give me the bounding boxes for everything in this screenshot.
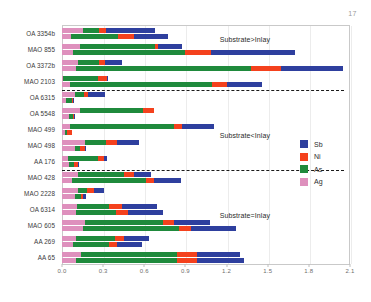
bar-substrate xyxy=(62,140,139,145)
bar-segment-sb xyxy=(105,60,122,65)
bar-segment-sb xyxy=(197,252,240,257)
bar-segment-sb xyxy=(94,188,104,193)
bar-segment-as xyxy=(68,156,97,161)
bar-segment-as xyxy=(81,252,177,257)
bar-segment-sb xyxy=(124,236,149,241)
y-axis-tick-label: OA 3372b xyxy=(26,62,55,69)
bar-segment-ni xyxy=(177,252,198,257)
bar-segment-as xyxy=(77,204,109,209)
bar-segment-sb xyxy=(117,242,142,247)
y-axis-tick-label: MAO 2228 xyxy=(24,190,55,197)
legend-label: Sb xyxy=(314,141,323,148)
bar-segment-sb xyxy=(85,146,86,151)
legend-item-as[interactable]: As xyxy=(300,165,362,173)
x-axis-tick xyxy=(308,264,309,267)
y-axis-tick-label: OA 5548 xyxy=(30,110,55,117)
bar-segment-as xyxy=(80,44,155,49)
bar-segment-sb xyxy=(182,124,214,129)
bar-segment-ni xyxy=(109,242,117,247)
bar-segment-sb xyxy=(74,114,75,119)
legend-swatch-icon xyxy=(300,178,308,186)
chart-annotation: Substrate<Inlay xyxy=(220,132,270,139)
bar-segment-ag xyxy=(62,92,75,97)
bar-segment-ni xyxy=(118,34,134,39)
figure-container: 17 OA 3354bMAO 855OA 3372bMAO 2103OA 631… xyxy=(0,0,371,302)
legend-item-sb[interactable]: Sb xyxy=(300,140,362,148)
bar-inlay xyxy=(62,226,236,231)
bar-segment-sb xyxy=(227,82,262,87)
bar-segment-sb xyxy=(107,76,108,81)
bar-segment-ni xyxy=(212,82,227,87)
bar-segment-ni xyxy=(87,188,95,193)
bar-segment-ag xyxy=(62,252,81,257)
x-axis-tick xyxy=(103,264,104,267)
bar-segment-as xyxy=(85,140,106,145)
bar-segment-ag xyxy=(62,204,77,209)
bar-substrate xyxy=(62,76,108,81)
bar-segment-ni xyxy=(106,140,117,145)
bar-segment-ni xyxy=(146,178,154,183)
bar-segment-ni xyxy=(116,210,128,215)
bar-inlay xyxy=(62,210,163,215)
bar-substrate xyxy=(62,156,107,161)
bar-substrate xyxy=(62,188,104,193)
x-axis-tick xyxy=(267,264,268,267)
legend-item-ag[interactable]: Ag xyxy=(300,178,362,186)
bar-inlay xyxy=(62,66,343,71)
bar-segment-sb xyxy=(117,140,140,145)
x-axis-tick xyxy=(226,264,227,267)
bar-segment-ni xyxy=(177,258,197,263)
bar-segment-sb xyxy=(174,220,210,225)
bar-segment-ni xyxy=(163,220,173,225)
bar-segment-sb xyxy=(154,178,181,183)
x-axis-tick-label: 0.6 xyxy=(140,268,149,274)
bar-substrate xyxy=(62,28,155,33)
bar-segment-ag xyxy=(62,162,69,167)
bar-segment-as xyxy=(70,124,174,129)
bar-segment-ni xyxy=(174,124,182,129)
legend-swatch-icon xyxy=(300,153,308,161)
bar-segment-ni xyxy=(185,50,210,55)
bar-segment-ni xyxy=(143,108,154,113)
chart-annotation: Substrate>Inlay xyxy=(220,36,270,43)
bar-segment-as xyxy=(72,178,147,183)
chart-legend: SbNiAsAg xyxy=(300,140,362,190)
x-axis-tick xyxy=(185,264,186,267)
bar-segment-ag xyxy=(62,258,76,263)
bar-segment-ni xyxy=(115,236,124,241)
legend-label: Ni xyxy=(314,153,321,160)
x-axis-tick-label: 0.0 xyxy=(58,268,67,274)
bar-inlay xyxy=(62,34,168,39)
bar-segment-sb xyxy=(88,92,105,97)
bar-segment-sb xyxy=(128,210,163,215)
bar-segment-sb xyxy=(122,204,157,209)
x-axis-tick-label: 1.2 xyxy=(222,268,231,274)
y-axis-tick-label: OA 3354b xyxy=(26,30,55,37)
x-axis-tick xyxy=(350,264,351,267)
bar-segment-ag xyxy=(62,108,80,113)
bar-inlay xyxy=(62,82,262,87)
bar-substrate xyxy=(62,172,151,177)
bar-inlay xyxy=(62,258,244,263)
bar-segment-sb xyxy=(281,66,343,71)
bar-substrate xyxy=(62,236,149,241)
bar-substrate xyxy=(62,92,105,97)
bar-segment-ag xyxy=(62,146,75,151)
x-axis-tick-label: 1.8 xyxy=(304,268,313,274)
bar-segment-ni xyxy=(99,28,106,33)
bar-segment-ni xyxy=(124,172,134,177)
bar-segment-as xyxy=(75,92,84,97)
y-axis-labels: OA 3354bMAO 855OA 3372bMAO 2103OA 6315OA… xyxy=(0,25,59,265)
legend-item-ni[interactable]: Ni xyxy=(300,153,362,161)
bar-segment-as xyxy=(85,220,164,225)
y-axis-tick-label: AA 269 xyxy=(34,238,55,245)
x-axis-tick-label: 0.9 xyxy=(181,268,190,274)
bar-segment-ag xyxy=(62,124,70,129)
bar-segment-as xyxy=(63,76,98,81)
bar-segment-ag xyxy=(62,114,69,119)
bar-segment-sb xyxy=(158,44,182,49)
bar-segment-sb xyxy=(197,258,244,263)
bar-segment-ag xyxy=(62,178,72,183)
bar-segment-as xyxy=(70,82,213,87)
bar-segment-as xyxy=(83,226,179,231)
